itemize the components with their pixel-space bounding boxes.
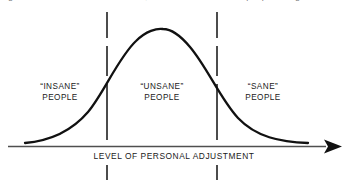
region-label-insane: “INSANE” PEOPLE: [20, 82, 100, 103]
region-label-unsane: “UNSANE” PEOPLE: [122, 82, 202, 103]
region-label-insane-line2: PEOPLE: [20, 93, 100, 104]
region-label-unsane-line2: PEOPLE: [122, 93, 202, 104]
region-label-unsane-line1: “UNSANE”: [122, 82, 202, 93]
region-label-sane-line1: “SANE”: [223, 82, 303, 93]
bell-curve-figure: Figure 1. The distribution of "sane", "u…: [0, 0, 348, 186]
region-label-sane-line2: PEOPLE: [223, 93, 303, 104]
region-label-insane-line1: “INSANE”: [20, 82, 100, 93]
x-axis-caption: LEVEL OF PERSONAL ADJUSTMENT: [0, 151, 348, 161]
region-label-sane: “SANE” PEOPLE: [223, 82, 303, 103]
